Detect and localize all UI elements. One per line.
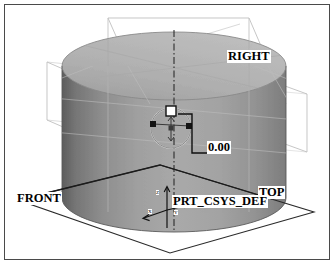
right-drag-handle (186, 123, 192, 129)
datum-label-front[interactable]: FRONT (16, 192, 62, 205)
axis-label-y: Y (174, 210, 178, 215)
dimension-value-label[interactable]: 0.00 (207, 141, 231, 154)
coordinate-system-label[interactable]: PRT_CSYS_DEF (172, 195, 268, 208)
model-canvas[interactable] (0, 0, 335, 265)
axis-label-z: Z (156, 190, 159, 195)
axis-label-x: X (148, 209, 152, 214)
datum-label-right[interactable]: RIGHT (227, 50, 271, 63)
dimension-square-handle[interactable] (166, 106, 176, 116)
center-point-handle (169, 126, 174, 131)
cad-screenshot: RIGHT FRONT TOP 0.00 PRT_CSYS_DEF X Y Z (0, 0, 335, 265)
left-drag-handle (150, 121, 156, 127)
